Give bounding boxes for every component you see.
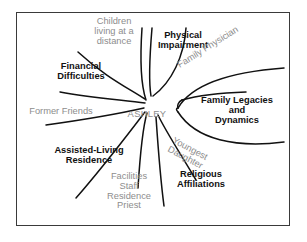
diagram-root: ASHLEY Children living at a distance Phy… — [0, 0, 307, 242]
node-assisted-living: Assisted-Living Residence — [42, 146, 136, 166]
petal-edge-left-upper — [60, 92, 145, 103]
node-religious-affiliations: Religious Affiliations — [168, 170, 234, 190]
node-children-distance: Children living at a distance — [80, 17, 148, 46]
node-financial-difficulties: Financial Difficulties — [48, 62, 114, 82]
petal-edge-top-left — [149, 28, 152, 96]
node-former-friends: Former Friends — [18, 107, 104, 117]
node-family-legacies: Family Legacies and Dynamics — [192, 96, 282, 125]
node-facilities-staff: Facilities Staff Residence Priest — [98, 172, 160, 211]
center-label: ASHLEY — [116, 108, 178, 119]
